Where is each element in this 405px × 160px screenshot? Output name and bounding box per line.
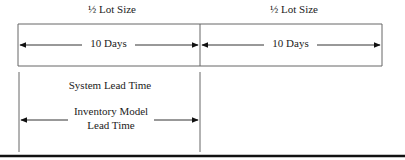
inventory-model-lead-time-label: Inventory Model Lead Time — [68, 104, 154, 132]
interval-label-left: 10 Days — [82, 37, 135, 49]
top-label-right: ½ Lot Size — [245, 3, 343, 15]
top-label-left: ½ Lot Size — [63, 3, 161, 15]
system-lead-time-label: System Lead Time — [58, 79, 162, 91]
inventory-model-line-1: Inventory Model — [72, 104, 150, 118]
inventory-model-line-2: Lead Time — [72, 118, 150, 132]
interval-label-right: 10 Days — [264, 37, 317, 49]
